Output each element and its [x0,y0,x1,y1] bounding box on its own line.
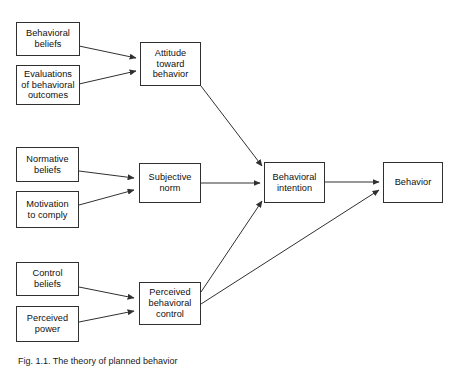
edge-attitude-to-behavioral-intention [201,86,262,166]
edge-perceived-power-to-perceived-control [79,311,134,322]
node-normative-beliefs[interactable]: Normative beliefs [16,147,79,182]
node-attitude-toward-behavior[interactable]: Attitude toward behavior [140,42,201,86]
node-control-beliefs[interactable]: Control beliefs [16,262,79,296]
edge-perceived-control-to-behavioral-intention [201,201,262,292]
node-perceived-behavioral-control[interactable]: Perceived behavioral control [139,282,201,325]
node-behavioral-intention[interactable]: Behavioral intention [264,162,325,203]
edge-evaluations-to-attitude [79,71,136,84]
node-subjective-norm[interactable]: Subjective norm [139,163,201,203]
node-motivation-to-comply[interactable]: Motivation to comply [16,191,79,228]
edge-motivation-to-comply-to-subjective-norm [79,190,134,205]
edge-perceived-control-to-behavior [201,190,379,304]
node-behavior[interactable]: Behavior [383,162,443,203]
edge-control-beliefs-to-perceived-control [79,287,134,298]
theory-of-planned-behavior-diagram: Behavioral beliefs Evaluations of behavi… [0,0,461,369]
edge-normative-beliefs-to-subjective-norm [79,171,134,178]
figure-caption: Fig. 1.1. The theory of planned behavior [18,356,177,366]
edge-behavioral-beliefs-to-attitude [79,46,136,58]
node-behavioral-beliefs[interactable]: Behavioral beliefs [16,22,80,56]
node-evaluations-of-behavioral-outcomes[interactable]: Evaluations of behavioral outcomes [16,65,80,105]
node-perceived-power[interactable]: Perceived power [16,306,79,342]
